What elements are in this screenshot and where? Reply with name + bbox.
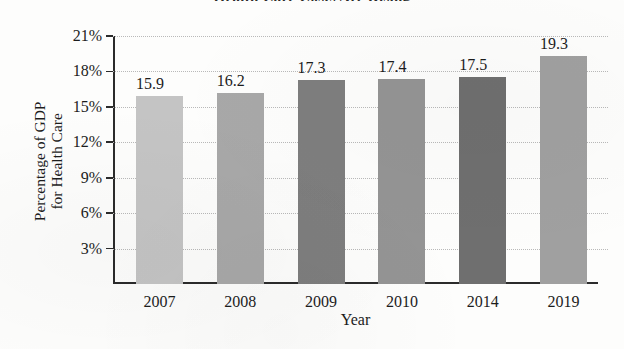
y-axis-tick: [106, 71, 113, 73]
y-axis-title-line-1: Percentage of GDP: [31, 51, 48, 271]
bar-2010[interactable]: 17.4: [378, 79, 425, 284]
bar-series: 15.9200716.2200817.3200917.4201017.52014…: [113, 36, 598, 284]
y-axis-tick: [106, 248, 113, 250]
bar-2009[interactable]: 17.3: [298, 80, 345, 284]
y-axis-tick-label: 21%: [73, 27, 102, 45]
x-axis-tick-label: 2010: [386, 293, 418, 311]
x-axis-title: Year: [113, 311, 598, 329]
y-axis-title-line-2: for Health Care: [48, 51, 65, 271]
chart-title-cropped: Health Care Costs Are Rising: [0, 0, 624, 1]
bar-value-label: 17.3: [298, 59, 326, 77]
y-axis-tick: [106, 212, 113, 214]
y-axis-title: Percentage of GDP for Health Care: [31, 51, 66, 271]
bar-value-label: 17.5: [459, 56, 487, 74]
x-axis-tick-label: 2019: [548, 293, 580, 311]
bar-value-label: 19.3: [540, 35, 568, 53]
y-axis-tick-label: 15%: [73, 97, 102, 115]
bar-value-label: 16.2: [217, 72, 245, 90]
bar-group[interactable]: 15.92007: [136, 36, 183, 284]
y-axis-tick: [106, 141, 113, 143]
y-axis-tick-label: 3%: [81, 239, 102, 257]
x-axis-tick-label: 2009: [305, 293, 337, 311]
bar-group[interactable]: 16.22008: [217, 36, 264, 284]
x-axis-tick-label: 2008: [224, 293, 256, 311]
bar-value-label: 17.4: [378, 58, 406, 76]
bar-chart: Health Care Costs Are Rising Percentage …: [0, 0, 624, 349]
y-axis-tick: [106, 177, 113, 179]
y-axis-tick-label: 18%: [73, 62, 102, 80]
y-axis-tick-label: 6%: [81, 204, 102, 222]
bar-2008[interactable]: 16.2: [217, 93, 264, 284]
x-axis-tick-label: 2014: [467, 293, 499, 311]
bar-2014[interactable]: 17.5: [459, 77, 506, 284]
bar-group[interactable]: 17.52014: [459, 36, 506, 284]
y-axis-tick: [106, 106, 113, 108]
y-axis-tick: [106, 35, 113, 37]
y-axis-tick-label: 9%: [81, 168, 102, 186]
bar-2019[interactable]: 19.3: [540, 56, 587, 284]
y-axis-tick-label: 12%: [73, 133, 102, 151]
plot-area: 3%6%9%12%15%18%21% 15.9200716.2200817.32…: [113, 36, 511, 284]
x-axis-tick-label: 2007: [143, 293, 175, 311]
bar-2007[interactable]: 15.9: [136, 96, 183, 284]
bar-group[interactable]: 17.42010: [378, 36, 425, 284]
bar-value-label: 15.9: [136, 75, 164, 93]
bar-group[interactable]: 17.32009: [298, 36, 345, 284]
bar-group[interactable]: 19.32019: [540, 36, 587, 284]
